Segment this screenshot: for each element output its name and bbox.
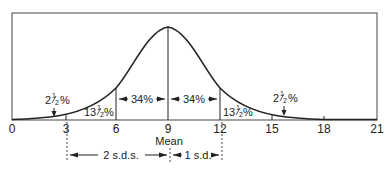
tick-label-21: 21 xyxy=(370,122,384,136)
arrowhead-icon xyxy=(282,110,287,116)
right-34-label: 34% xyxy=(183,93,205,105)
svg-text:1: 1 xyxy=(97,104,101,111)
mean-label: Mean xyxy=(155,135,183,147)
arrowhead-icon xyxy=(159,153,167,158)
svg-text:%: % xyxy=(60,94,70,106)
svg-text:2: 2 xyxy=(273,92,279,104)
tick-label-9: 9 xyxy=(165,122,172,136)
tick-label-15: 15 xyxy=(265,122,279,136)
tick-label-0: 0 xyxy=(9,122,16,136)
svg-text:2: 2 xyxy=(45,94,51,106)
svg-text:2: 2 xyxy=(283,97,287,104)
left-2-5-label: 2 1 2 % xyxy=(45,92,70,106)
tick-label-3: 3 xyxy=(63,122,70,136)
svg-text:%: % xyxy=(288,92,298,104)
arrowhead-icon xyxy=(157,97,165,102)
arrowhead-icon xyxy=(171,97,179,102)
x-tick-labels: 0 3 6 9 12 15 18 21 xyxy=(9,122,384,136)
svg-text:2: 2 xyxy=(55,99,59,106)
arrowhead-icon xyxy=(211,153,219,158)
left-13-5-label: 13 1 2 % xyxy=(84,104,114,118)
svg-text:1: 1 xyxy=(280,90,284,97)
arrowhead-icon xyxy=(119,97,127,102)
svg-text:%: % xyxy=(104,106,114,118)
svg-text:13: 13 xyxy=(223,106,235,118)
two-sd-label: 2 s.d.s. xyxy=(103,149,138,161)
left-34-label: 34% xyxy=(131,93,153,105)
svg-text:1: 1 xyxy=(236,104,240,111)
arrowhead-icon xyxy=(173,153,181,158)
arrowhead-icon xyxy=(209,97,217,102)
svg-text:13: 13 xyxy=(84,106,96,118)
svg-text:1: 1 xyxy=(52,92,56,99)
arrowhead-icon xyxy=(70,153,78,158)
tick-label-18: 18 xyxy=(317,122,331,136)
tick-label-12: 12 xyxy=(213,122,227,136)
normal-distribution-diagram: 0 3 6 9 12 15 18 21 Mean 2 s.d.s. 1 s.d.… xyxy=(0,0,389,169)
one-sd-label: 1 s.d. xyxy=(185,149,212,161)
right-13-5-label: 13 1 2 % xyxy=(223,104,253,118)
tick-label-6: 6 xyxy=(113,122,120,136)
svg-text:%: % xyxy=(243,106,253,118)
right-2-5-label: 2 1 2 % xyxy=(273,90,298,104)
